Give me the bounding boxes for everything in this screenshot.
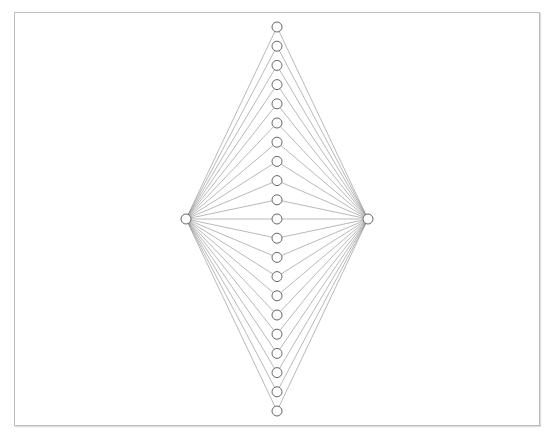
edge: [186, 200, 277, 219]
edge: [186, 85, 277, 219]
edge: [186, 219, 277, 315]
edge: [277, 219, 368, 373]
edge: [277, 200, 368, 219]
middle-node[interactable]: [272, 22, 282, 32]
edge: [277, 65, 368, 219]
middle-node[interactable]: [272, 368, 282, 378]
middle-node[interactable]: [272, 195, 282, 205]
edge: [186, 142, 277, 219]
edge: [186, 219, 277, 238]
edge: [186, 219, 277, 257]
edge: [277, 219, 368, 257]
edge: [186, 65, 277, 219]
middle-node[interactable]: [272, 60, 282, 70]
middle-node[interactable]: [272, 80, 282, 90]
edge: [277, 219, 368, 296]
edge: [186, 219, 277, 334]
edge: [277, 181, 368, 219]
edge: [277, 85, 368, 219]
middle-node[interactable]: [272, 387, 282, 397]
middle-node[interactable]: [272, 118, 282, 128]
edge: [277, 219, 368, 238]
middle-node[interactable]: [272, 406, 282, 416]
edge: [186, 219, 277, 373]
edge: [186, 46, 277, 219]
network-graph: [0, 0, 554, 438]
edge: [186, 219, 277, 353]
middle-node[interactable]: [272, 272, 282, 282]
target-node[interactable]: [363, 214, 373, 224]
edge: [277, 123, 368, 219]
edge: [277, 219, 368, 334]
edge: [186, 104, 277, 219]
middle-node[interactable]: [272, 348, 282, 358]
middle-node[interactable]: [272, 99, 282, 109]
edge: [277, 46, 368, 219]
edge: [277, 104, 368, 219]
middle-node[interactable]: [272, 233, 282, 243]
middle-node[interactable]: [272, 310, 282, 320]
middle-node[interactable]: [272, 291, 282, 301]
source-node[interactable]: [181, 214, 191, 224]
edge: [186, 181, 277, 219]
middle-node[interactable]: [272, 176, 282, 186]
edge: [186, 123, 277, 219]
edge: [277, 219, 368, 353]
middle-node[interactable]: [272, 252, 282, 262]
edge: [277, 219, 368, 315]
edge: [186, 219, 277, 392]
middle-node[interactable]: [272, 41, 282, 51]
edge: [277, 142, 368, 219]
middle-node[interactable]: [272, 329, 282, 339]
edge: [186, 219, 277, 296]
middle-node[interactable]: [272, 214, 282, 224]
edge: [277, 219, 368, 392]
middle-node[interactable]: [272, 137, 282, 147]
middle-node[interactable]: [272, 156, 282, 166]
